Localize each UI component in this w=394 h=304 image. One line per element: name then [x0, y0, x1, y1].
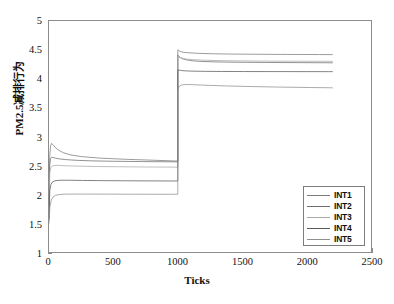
y-axis-label: PM2.5减排行为 [10, 18, 26, 178]
legend-swatch-icon [307, 195, 330, 196]
legend-swatch-icon [307, 217, 330, 218]
x-tick-label: 1000 [167, 256, 188, 267]
x-tick-mark [372, 248, 373, 253]
series-line-int4 [49, 70, 332, 220]
y-tick-label: 3.5 [29, 102, 42, 113]
series-line-int1 [49, 50, 332, 219]
legend-item-int2[interactable]: INT2 [304, 201, 364, 212]
x-tick-label: 500 [105, 256, 121, 267]
x-tick-label: 0 [45, 256, 50, 267]
x-tick-label: 2500 [362, 256, 383, 267]
y-tick-label: 5 [37, 15, 42, 26]
y-tick-label: 1 [37, 248, 42, 259]
series-line-int3 [49, 57, 332, 217]
series-line-int5 [49, 85, 332, 224]
legend-item-int5[interactable]: INT5 [304, 234, 364, 245]
legend-item-int4[interactable]: INT4 [304, 223, 364, 234]
y-tick-label: 1.5 [29, 218, 42, 229]
chart-figure: 11.522.533.544.55 05001000150020002500 T… [0, 0, 394, 304]
legend-item-int3[interactable]: INT3 [304, 212, 364, 223]
x-tick-label: 2000 [297, 256, 318, 267]
x-axis-label: Ticks [0, 274, 394, 286]
legend-item-int1[interactable]: INT1 [304, 190, 364, 201]
x-tick-label: 1500 [232, 256, 253, 267]
legend-label: INT2 [334, 202, 352, 211]
legend-swatch-icon [307, 228, 330, 229]
y-tick-mark [48, 253, 52, 254]
legend-label: INT5 [334, 235, 352, 244]
legend-label: INT4 [334, 224, 352, 233]
y-tick-label: 4.5 [29, 44, 42, 55]
legend-label: INT3 [334, 213, 352, 222]
y-tick-label: 3 [37, 131, 42, 142]
legend-swatch-icon [307, 239, 330, 240]
y-tick-label: 2.5 [29, 160, 42, 171]
series-line-int2 [49, 55, 332, 217]
legend-label: INT1 [334, 191, 352, 200]
y-tick-label: 2 [37, 189, 42, 200]
chart-legend: INT1INT2INT3INT4INT5 [303, 186, 365, 246]
legend-swatch-icon [307, 206, 330, 207]
y-tick-label: 4 [37, 73, 42, 84]
